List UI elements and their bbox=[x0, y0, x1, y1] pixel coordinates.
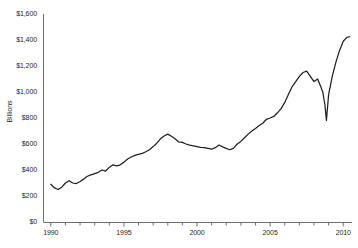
y-tick-label: $400 bbox=[3, 166, 37, 173]
x-tick-label: 1995 bbox=[109, 229, 139, 236]
y-tick-label: $1,600 bbox=[3, 10, 37, 17]
x-tick-label: 2005 bbox=[255, 229, 285, 236]
data-line-value bbox=[51, 37, 350, 190]
plot-area bbox=[0, 0, 358, 248]
x-axis-ticks bbox=[51, 223, 343, 227]
y-tick-label: $1,000 bbox=[3, 88, 37, 95]
axis-lines bbox=[44, 14, 353, 223]
y-tick-label: $1,200 bbox=[3, 62, 37, 69]
data-series-group bbox=[51, 37, 350, 190]
y-tick-label: $200 bbox=[3, 192, 37, 199]
y-tick-label: $1,400 bbox=[3, 36, 37, 43]
y-tick-label: $800 bbox=[3, 114, 37, 121]
line-chart: Billions $0$200$400$600$800$1,000$1,200$… bbox=[0, 0, 358, 248]
y-tick-label: $600 bbox=[3, 140, 37, 147]
x-tick-label: 2000 bbox=[182, 229, 212, 236]
x-tick-label: 1990 bbox=[36, 229, 66, 236]
x-tick-label: 2010 bbox=[328, 229, 358, 236]
y-tick-label: $0 bbox=[3, 218, 37, 225]
